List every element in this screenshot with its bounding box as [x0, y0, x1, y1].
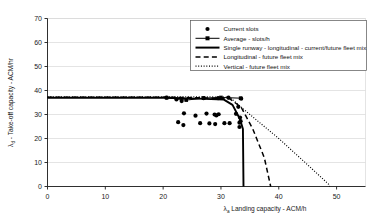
legend-marker-dot-icon — [205, 27, 209, 31]
data-point — [176, 120, 180, 124]
legend-label: Average - slots/h — [224, 35, 271, 42]
legend-box: Current slotsAverage - slots/hSingle run… — [191, 21, 368, 71]
y-tick-label-20: 20 — [34, 135, 42, 142]
x-tick-label-40: 40 — [275, 193, 283, 200]
data-point — [193, 114, 197, 118]
average-marker — [239, 96, 243, 100]
y-tick-label-10: 10 — [34, 159, 42, 166]
y-tick-label-0: 0 — [38, 183, 42, 190]
y-tick-label-70: 70 — [34, 15, 42, 22]
data-point — [198, 121, 202, 125]
data-point — [181, 123, 185, 127]
x-tick-label-50: 50 — [333, 193, 341, 200]
y-tick-label-60: 60 — [34, 39, 42, 46]
data-point — [182, 111, 186, 115]
x-tick-label-0: 0 — [46, 193, 50, 200]
legend-marker-square-icon — [206, 36, 210, 40]
data-point — [207, 121, 211, 125]
capacity-envelope-chart: 010203040506070 01020304050 λd - Take-of… — [0, 0, 380, 219]
x-tick-label-30: 30 — [217, 193, 225, 200]
data-point — [204, 111, 208, 115]
data-point — [213, 122, 217, 126]
data-point — [222, 121, 226, 125]
legend-label: Current slots — [224, 25, 259, 32]
y-tick-label-40: 40 — [34, 87, 42, 94]
legend-label: Vertical - future fleet mix — [224, 63, 291, 70]
x-tick-label-10: 10 — [101, 193, 109, 200]
legend-label: Longitudinal - future fleet mix — [224, 53, 304, 60]
y-tick-label-50: 50 — [34, 63, 42, 70]
legend-label: Single runway - longitudinal - current/f… — [224, 44, 368, 51]
data-point — [228, 121, 232, 125]
x-tick-label-20: 20 — [159, 193, 167, 200]
chart-container: 010203040506070 01020304050 λd - Take-of… — [0, 0, 380, 219]
data-point — [214, 113, 218, 117]
y-tick-label-30: 30 — [34, 111, 42, 118]
